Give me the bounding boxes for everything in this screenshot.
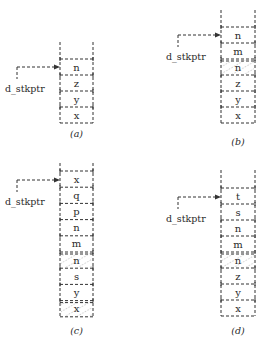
stack-cell: y [221,89,255,105]
stack-pointer: d_stkptr [5,65,60,96]
arrowhead-icon [54,178,60,183]
stack-diagram: nzyxd_stkptr(a)nmnzyxd_stkptr(b)xqpnmnsy… [0,0,263,343]
stack-cell: n [221,218,255,234]
cell-label: n [235,62,242,73]
cell-label: n [235,223,242,234]
cell-label: z [74,78,79,89]
arrowhead-icon [215,195,221,200]
cell-label: q [73,190,80,201]
stack-cell: z [221,73,255,89]
cell-label: m [233,239,243,250]
stack-pointer: d_stkptr [5,178,60,209]
cell-label: y [73,94,80,105]
stack-cell: s [221,202,255,218]
pointer-label: d_stkptr [5,196,45,208]
stack-cell: x [60,105,93,121]
stack-panel-c: xqpnmnsyxd_stkptr(c) [5,163,93,336]
stack-pointer: d_stkptr [166,195,221,226]
cell-label: x [74,110,80,121]
stack-cell: m [221,234,255,250]
cell-label: n [235,255,242,266]
cell-label: m [233,46,243,57]
stack-cell-freed: n [221,57,255,74]
cell-label: t [236,191,240,202]
stack-cell: q [60,185,93,201]
arrowhead-icon [54,65,60,70]
cell-label: s [235,207,240,218]
stack-cell: m [60,234,93,250]
cell-label: x [74,303,80,314]
panel-caption: (d) [231,325,245,336]
panel-caption: (c) [70,325,83,336]
stack-cell: x [221,298,255,314]
cell-label: z [235,271,240,282]
cell-label: y [73,287,80,298]
cell-label: n [73,222,80,233]
panel-caption: (b) [231,136,245,147]
cell-label: n [235,30,242,41]
stack-cell: y [221,282,255,298]
stack-cell: x [60,169,93,185]
pointer-label: d_stkptr [166,213,206,225]
stack-cell: s [60,266,93,282]
cell-label: m [72,238,82,249]
stack-cell: y [60,282,93,298]
cell-label: p [73,206,79,217]
stack-pointer: d_stkptr [166,33,221,64]
stack-cell: n [60,57,93,73]
pointer-label: d_stkptr [166,51,206,63]
cell-label: n [73,62,80,73]
stack-cell: z [221,266,255,282]
stack-cell: n [60,218,93,234]
stack-cell: t [221,186,255,202]
stack-panel-d: tsnmnzyxd_stkptr(d) [166,170,255,336]
stack-cell: n [221,25,255,41]
stack-cell-freed: n [221,250,255,267]
stack-cell: z [60,73,93,89]
cell-label: z [235,78,240,89]
arrowhead-icon [215,33,221,38]
stack-cell-freed: n [60,250,93,267]
stack-cell: m [221,41,255,57]
cell-label: y [234,287,241,298]
panel-caption: (a) [70,128,83,139]
cell-label: x [235,303,241,314]
cell-label: x [235,110,241,121]
stack-panel-a: nzyxd_stkptr(a) [5,42,93,139]
stack-cell: p [60,201,93,217]
stack-cell: x [221,105,255,121]
cell-label: s [74,271,79,282]
stack-cell: y [60,89,93,105]
cell-label: n [73,255,80,266]
cell-label: y [234,94,241,105]
pointer-label: d_stkptr [5,83,45,95]
stack-panel-b: nmnzyxd_stkptr(b) [166,10,255,147]
stack-cell-freed: x [60,299,93,316]
cell-label: x [74,174,80,185]
